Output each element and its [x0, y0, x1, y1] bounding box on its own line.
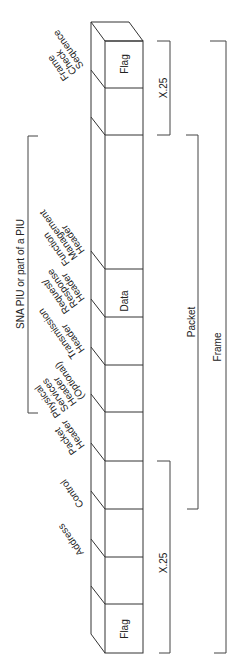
packet-label: Packet	[186, 306, 197, 337]
box-front-face	[105, 41, 143, 653]
data-label: Data	[119, 290, 130, 312]
address-label: Address	[56, 522, 86, 558]
packet-bracket: Packet	[186, 135, 198, 509]
field-dividers	[91, 70, 143, 604]
x25-bottom-label: X.25	[158, 552, 169, 573]
sna-piu-label: SNA PIU or part of a PIU	[15, 219, 26, 329]
frame-box: Flag Data Flag	[91, 22, 143, 653]
box-top-face	[91, 22, 143, 41]
x25-top-label: X.25	[158, 77, 169, 98]
frame-bracket: Frame	[210, 41, 226, 653]
x25-top-bracket: X.25	[157, 41, 170, 135]
frame-structure-diagram: Flag Data Flag Sequence Check Frame Head…	[0, 0, 237, 670]
control-label: Control	[58, 477, 86, 510]
flag-end-label: Flag	[119, 54, 130, 73]
frame-label: Frame	[212, 332, 223, 361]
flag-start-label: Flag	[119, 619, 130, 638]
x25-bottom-bracket: X.25	[157, 461, 170, 653]
field-labels: Sequence Check Frame Header Management F…	[32, 28, 86, 559]
box-bottom-edge	[91, 634, 105, 653]
sna-piu-bracket: SNA PIU or part of a PIU	[15, 136, 38, 413]
